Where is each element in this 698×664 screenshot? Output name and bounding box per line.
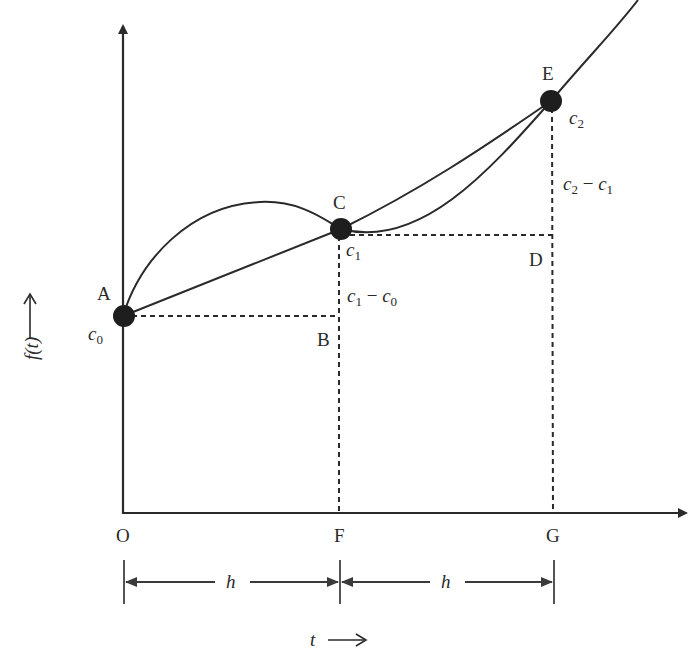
y-axis-label-group: f(t) xyxy=(21,337,43,360)
label-c2: c2 xyxy=(569,107,584,131)
label-O: O xyxy=(116,525,130,546)
function-curve xyxy=(123,0,638,316)
label-c0: c0 xyxy=(88,323,103,347)
y-axis-label: f(t) xyxy=(21,337,43,360)
label-h-2: h xyxy=(441,571,451,592)
label-c1: c1 xyxy=(346,239,361,263)
label-E: E xyxy=(542,63,554,84)
chord-AC xyxy=(123,229,341,316)
label-h-1: h xyxy=(226,571,236,592)
dashed-line-EG xyxy=(552,108,553,512)
diagram-canvas: A C E B D O F G c0 c1 c2 c1 − c0 c2 − c1… xyxy=(0,0,698,664)
label-C: C xyxy=(333,192,346,213)
point-A-marker xyxy=(113,305,135,327)
label-G: G xyxy=(546,525,560,546)
label-A: A xyxy=(97,283,111,304)
point-C-marker xyxy=(330,218,352,240)
label-c1-minus-c0: c1 − c0 xyxy=(347,285,397,309)
chord-CE xyxy=(341,101,551,229)
x-axis-label: t xyxy=(310,629,316,650)
label-B: B xyxy=(317,329,330,350)
label-F: F xyxy=(334,525,345,546)
dashed-guides xyxy=(132,108,553,512)
label-c2-minus-c1: c2 − c1 xyxy=(563,173,613,197)
y-axis-label-arrow-icon xyxy=(24,294,36,338)
label-D: D xyxy=(529,249,543,270)
point-E-marker xyxy=(540,90,562,112)
x-axis-label-arrow-icon xyxy=(328,634,366,646)
